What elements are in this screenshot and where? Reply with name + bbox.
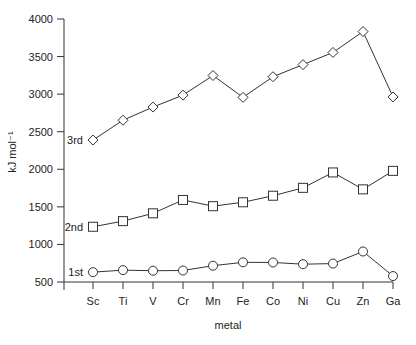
diamond-marker xyxy=(178,90,188,100)
y-tick-label: 3000 xyxy=(29,88,53,100)
circle-marker xyxy=(239,258,248,267)
y-tick-label: 2500 xyxy=(29,126,53,138)
circle-marker xyxy=(119,266,128,275)
y-tick-label: 1500 xyxy=(29,201,53,213)
series-2nd: 2nd xyxy=(65,166,398,232)
x-axis: ScTiVCrMnFeCoNiCuZnGa xyxy=(64,282,401,307)
square-marker xyxy=(299,183,308,192)
x-tick-label: Cr xyxy=(177,295,189,307)
diamond-marker xyxy=(118,115,128,125)
diamond-marker xyxy=(238,92,248,102)
series-layer: 1st2nd3rd xyxy=(65,27,398,281)
x-tick-label: Fe xyxy=(237,295,250,307)
square-marker xyxy=(389,166,398,175)
series-3rd: 3rd xyxy=(67,27,398,147)
x-tick-label: Ga xyxy=(386,295,402,307)
diamond-marker xyxy=(358,27,368,37)
x-tick-label: Ti xyxy=(119,295,128,307)
x-tick-label: Cu xyxy=(326,295,340,307)
circle-marker xyxy=(89,268,98,277)
x-tick-label: V xyxy=(149,295,157,307)
circle-marker xyxy=(329,259,338,268)
circle-marker xyxy=(299,260,308,269)
series-label: 3rd xyxy=(67,134,83,146)
chart-canvas: 5001000150020002500300035004000 ScTiVCrM… xyxy=(0,0,416,345)
square-marker xyxy=(179,195,188,204)
diamond-marker xyxy=(268,72,278,82)
square-marker xyxy=(89,222,98,231)
x-tick-label: Mn xyxy=(205,295,220,307)
square-marker xyxy=(119,217,128,226)
diamond-marker xyxy=(208,71,218,81)
x-tick-label: Sc xyxy=(87,295,100,307)
diamond-marker xyxy=(328,47,338,57)
x-tick-label: Ni xyxy=(298,295,308,307)
y-tick-label: 1000 xyxy=(29,238,53,250)
circle-marker xyxy=(359,247,368,256)
y-tick-label: 3500 xyxy=(29,51,53,63)
circle-marker xyxy=(269,258,278,267)
square-marker xyxy=(209,202,218,211)
square-marker xyxy=(359,185,368,194)
circle-marker xyxy=(209,261,218,270)
square-marker xyxy=(149,209,158,218)
diamond-marker xyxy=(148,102,158,112)
square-marker xyxy=(329,168,338,177)
series-line xyxy=(93,32,393,141)
x-tick-label: Co xyxy=(266,295,280,307)
y-tick-label: 4000 xyxy=(29,13,53,25)
diamond-marker xyxy=(388,92,398,102)
series-label: 1st xyxy=(68,266,83,278)
circle-marker xyxy=(149,266,158,275)
y-axis-title: kJ mol⁻¹ xyxy=(6,131,18,173)
y-tick-label: 2000 xyxy=(29,163,53,175)
series-1st: 1st xyxy=(68,247,397,281)
x-axis-title: metal xyxy=(215,319,242,331)
circle-marker xyxy=(179,266,188,275)
ionization-energy-chart: 5001000150020002500300035004000 ScTiVCrM… xyxy=(0,0,416,345)
square-marker xyxy=(269,191,278,200)
series-label: 2nd xyxy=(65,221,83,233)
x-tick-label: Zn xyxy=(357,295,370,307)
y-tick-label: 500 xyxy=(35,276,53,288)
diamond-marker xyxy=(88,135,98,145)
diamond-marker xyxy=(298,60,308,70)
y-axis: 5001000150020002500300035004000 xyxy=(29,13,64,290)
circle-marker xyxy=(389,272,398,281)
square-marker xyxy=(239,198,248,207)
